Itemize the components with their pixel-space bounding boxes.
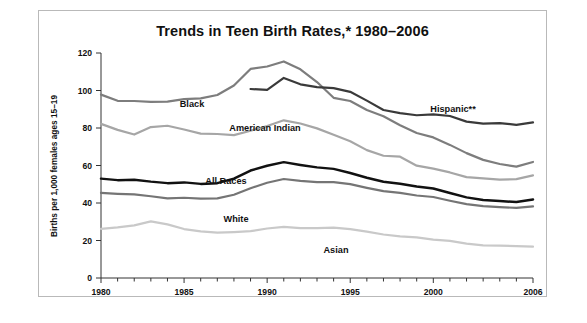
series-line-hispanic	[251, 78, 533, 125]
y-tick-label: 40	[82, 198, 92, 208]
y-tick-label: 80	[82, 123, 92, 133]
series-label-white: White	[223, 214, 248, 224]
x-tick-label: 1990	[258, 287, 277, 297]
series-label-asian: Asian	[323, 245, 348, 255]
series-label-all-races: All Races	[205, 176, 246, 186]
x-tick-label: 1985	[175, 287, 194, 297]
x-ticks-group: 198019851990199520002006	[91, 278, 542, 297]
x-tick-label: 2000	[424, 287, 443, 297]
chart-figure: Trends in Teen Birth Rates,* 1980–2006 0…	[38, 10, 547, 297]
y-tick-label: 20	[82, 236, 92, 246]
series-line-asian	[101, 221, 533, 246]
series-line-black	[101, 61, 533, 166]
series-label-american-indian: American Indian	[229, 123, 301, 133]
y-tick-label: 0	[87, 273, 92, 283]
chart-plot-area: 020406080100120 198019851990199520002006…	[39, 11, 548, 298]
y-ticks-group: 020406080100120	[78, 48, 101, 283]
series-label-hispanic: Hispanic**	[430, 104, 476, 114]
series-line-american-indian	[101, 120, 533, 179]
x-tick-label: 1995	[341, 287, 360, 297]
series-lines-group	[101, 61, 533, 246]
y-tick-label: 60	[82, 161, 92, 171]
y-tick-label: 100	[78, 86, 93, 96]
y-tick-label: 120	[78, 48, 93, 58]
y-axis-title: Births per 1,000 females ages 15–19	[49, 95, 59, 237]
x-tick-label: 1980	[91, 287, 110, 297]
series-label-black: Black	[180, 99, 205, 109]
x-tick-label: 2006	[523, 287, 542, 297]
